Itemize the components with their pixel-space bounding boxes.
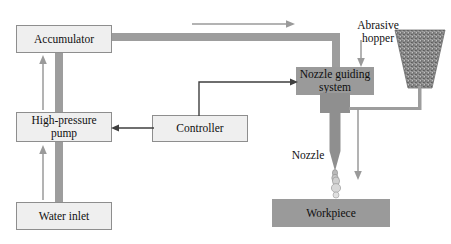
inlet-to-pump-flow-arrow — [36, 144, 50, 202]
inlet-to-pump-pipe — [55, 140, 63, 204]
controller-label: Controller — [176, 122, 223, 135]
accumulator-to-nozzle-pipe-vertical — [332, 33, 340, 71]
pump-to-accumulator-flow-arrow — [36, 54, 50, 112]
accumulator-to-nozzle-pipe-horizontal — [110, 33, 340, 41]
nozzle-label: Nozzle — [286, 136, 330, 162]
nozzle-jet-spray — [326, 176, 346, 200]
workpiece-box[interactable]: Workpiece — [272, 199, 390, 227]
high-pressure-pump-label: High-pressure pump — [31, 114, 96, 140]
nozzle-guiding-system-box[interactable]: Nozzle guiding system — [296, 67, 374, 95]
workpiece-label: Workpiece — [306, 207, 356, 220]
water-inlet-box[interactable]: Water inlet — [16, 202, 112, 230]
controller-to-nozzle-arrow — [194, 78, 302, 118]
high-pressure-pump-box[interactable]: High-pressure pump — [16, 112, 112, 142]
controller-box[interactable]: Controller — [152, 115, 248, 142]
controller-to-pump-arrow — [108, 120, 156, 136]
nozzle-guiding-system-label: Nozzle guiding system — [300, 68, 371, 94]
accumulator-to-pump-pipe — [55, 52, 63, 114]
abrasive-hopper-label: Abrasive hopper — [350, 6, 406, 46]
accumulator-label: Accumulator — [34, 33, 94, 46]
awjm-schematic-diagram: Accumulator High-pressure pump Water inl… — [0, 0, 451, 244]
accumulator-box[interactable]: Accumulator — [16, 25, 112, 53]
accumulator-outlet-flow-arrow — [190, 17, 298, 31]
water-inlet-label: Water inlet — [39, 210, 89, 223]
jet-direction-flow-arrow — [351, 108, 365, 182]
